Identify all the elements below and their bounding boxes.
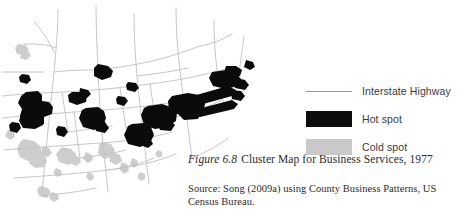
figure-container: Interstate Highway Hot spot Cold spot Fi…: [0, 0, 464, 224]
figure-title: Cluster Map for Business Services, 1977: [241, 153, 433, 165]
legend-item-hot-spot: Hot spot: [306, 108, 464, 130]
figure-source-note: Source: Song (2009a) using County Busine…: [188, 183, 438, 208]
figure-number: Figure 6.8: [188, 153, 237, 165]
interstate-highway-line-icon: [306, 84, 352, 99]
legend-item-interstate-highway: Interstate Highway: [306, 80, 464, 102]
figure-caption: Figure 6.8Cluster Map for Business Servi…: [188, 153, 460, 165]
map-legend: Interstate Highway Hot spot Cold spot: [306, 80, 464, 164]
legend-label-interstate-highway: Interstate Highway: [362, 85, 451, 97]
legend-label-cold-spot: Cold spot: [362, 141, 407, 153]
legend-label-hot-spot: Hot spot: [362, 113, 402, 125]
hot-spot-swatch-icon: [306, 111, 352, 127]
